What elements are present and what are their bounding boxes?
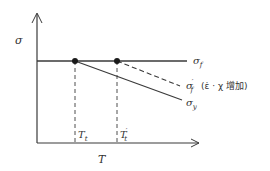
sigma-f-label: σf bbox=[193, 55, 204, 69]
x-axis bbox=[37, 139, 199, 147]
tt-label: Tt bbox=[78, 129, 88, 143]
sigma-f-prime-line bbox=[117, 61, 180, 86]
x-axis-label: T bbox=[98, 153, 107, 166]
sigma-y-label: σy bbox=[186, 97, 198, 111]
tt-prime-intersection-point bbox=[114, 58, 120, 64]
tt-prime-label: T′t bbox=[120, 127, 128, 143]
y-axis-label: σ bbox=[15, 34, 23, 47]
sigma-f-prime-annotation: (ε̇ · χ 增加) bbox=[201, 80, 248, 91]
ductile-brittle-transition-diagram: σ T σf σ′f (ε̇ · χ 增加) σy Tt T′t bbox=[0, 0, 270, 171]
y-axis bbox=[32, 13, 42, 143]
tt-intersection-point bbox=[72, 58, 78, 64]
sigma-f-prime-label: σ′f bbox=[186, 78, 194, 94]
